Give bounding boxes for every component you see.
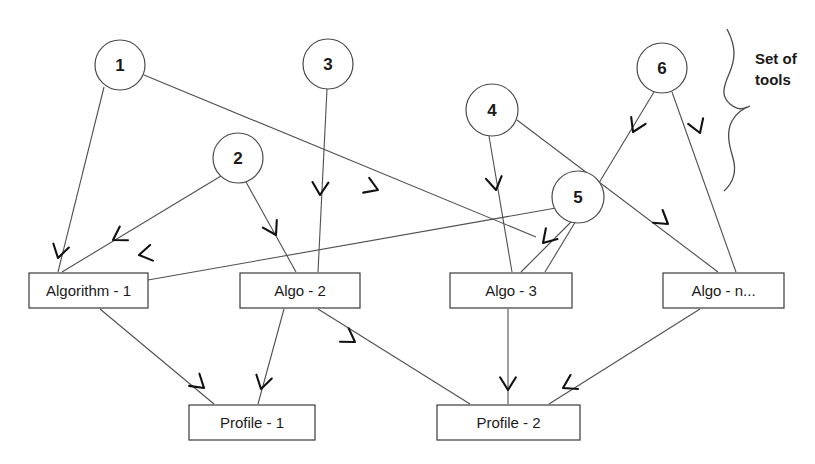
arrowheads-group [53, 117, 703, 390]
algorithm-box-algorithm-1[interactable]: Algorithm - 1 [29, 273, 148, 308]
algorithm-box-algo-3[interactable]: Algo - 3 [450, 273, 572, 308]
algorithm-box-label: Algo - 2 [274, 282, 326, 299]
diagram-canvas: 123456 Algorithm - 1Algo - 2Algo - 3Algo… [0, 0, 815, 464]
tool-node-5[interactable]: 5 [552, 171, 604, 223]
profile-box-profile-1[interactable]: Profile - 1 [189, 405, 315, 440]
edge-algo-n-to-profile-2 [549, 309, 700, 404]
profile-box-profile-2[interactable]: Profile - 2 [437, 405, 580, 440]
algorithm-box-algo-n[interactable]: Algo - n... [663, 273, 784, 308]
edge-tool-2-to-algorithm-1 [62, 176, 221, 272]
profile-boxes-group: Profile - 1Profile - 2 [189, 405, 580, 440]
arrowhead-icon [543, 228, 558, 243]
edge-algo-2-to-profile-1 [258, 309, 284, 404]
edge-algorithm-1-to-profile-1 [100, 309, 214, 404]
profile-box-label: Profile - 2 [476, 414, 540, 431]
tool-node-label: 4 [487, 101, 497, 120]
tool-node-label: 5 [573, 188, 582, 207]
tool-node-4[interactable]: 4 [466, 84, 518, 136]
algorithm-box-algo-2[interactable]: Algo - 2 [240, 273, 360, 308]
arrowhead-icon [189, 374, 204, 388]
tool-node-1[interactable]: 1 [95, 40, 145, 90]
tool-node-label: 1 [115, 56, 124, 75]
tool-node-6[interactable]: 6 [637, 43, 687, 93]
arrowhead-icon [653, 210, 668, 224]
edge-tool-4-to-algo-3 [489, 136, 512, 272]
tool-node-2[interactable]: 2 [213, 133, 263, 183]
algorithm-box-label: Algorithm - 1 [46, 282, 131, 299]
algorithm-box-label: Algo - 3 [485, 282, 537, 299]
algorithm-boxes-group: Algorithm - 1Algo - 2Algo - 3Algo - n... [29, 273, 784, 308]
arrowhead-icon [53, 244, 68, 258]
arrowhead-icon [688, 118, 703, 133]
arrowhead-icon [139, 245, 153, 261]
edge-algo-2-to-profile-2 [318, 309, 470, 404]
arrowhead-icon [486, 176, 502, 190]
arrowhead-icon [363, 178, 378, 193]
edge-tool-3-to-algo-2 [318, 89, 327, 272]
edges-group [58, 75, 736, 404]
tool-node-3[interactable]: 3 [303, 39, 353, 89]
arrowhead-icon [631, 117, 645, 132]
tool-node-label: 3 [323, 55, 332, 74]
algorithm-box-label: Algo - n... [691, 282, 755, 299]
set-of-tools-label-line2: tools [755, 71, 791, 88]
arrowhead-icon [313, 182, 329, 195]
profile-box-label: Profile - 1 [220, 414, 284, 431]
tool-nodes-group: 123456 [95, 39, 687, 223]
edge-tool-1-to-algorithm-1 [58, 87, 104, 272]
tool-node-label: 2 [233, 149, 242, 168]
edge-tool-5-to-algorithm-1 [148, 208, 556, 280]
set-of-tools-label-line1: Set of [755, 50, 798, 67]
curly-brace [724, 29, 750, 191]
flow-diagram: 123456 Algorithm - 1Algo - 2Algo - 3Algo… [0, 0, 815, 464]
edge-tool-4-to-algo-n [517, 120, 718, 272]
tool-node-label: 6 [657, 59, 666, 78]
